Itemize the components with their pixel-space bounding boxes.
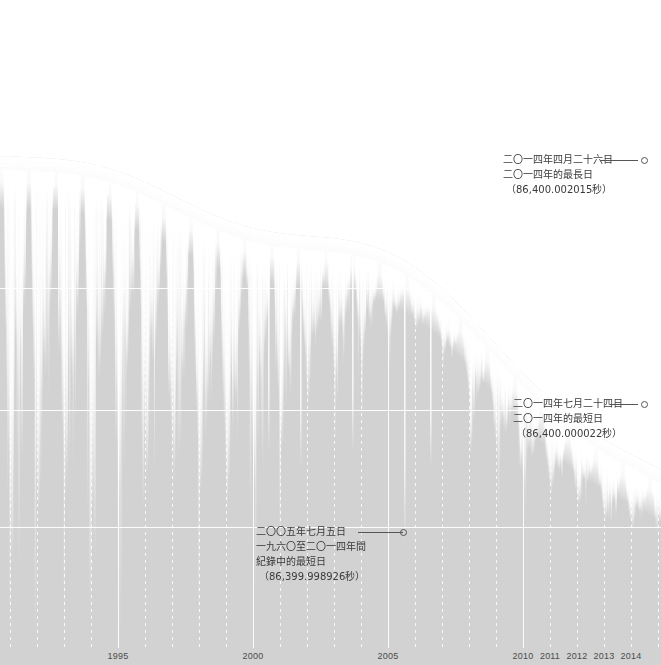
annotation-value-line: （86,399.998926秒）	[256, 569, 366, 584]
x-axis-tick-2000: 2000	[243, 651, 264, 662]
annotation-marker-circle[interactable]	[400, 529, 407, 536]
annotation-caption-line: 二〇一四年的最長日	[503, 167, 613, 182]
annotation-leader-line	[358, 532, 403, 533]
x-axis-tick-2012: 2012	[567, 651, 588, 662]
annotation-marker-circle[interactable]	[641, 401, 648, 408]
annotation-caption-line: 二〇一四年的最短日	[513, 411, 623, 426]
annotation-leader-line	[600, 160, 638, 161]
x-axis-tick-1995: 1995	[108, 651, 129, 662]
annotation-value-line: （86,400.000022秒）	[513, 426, 623, 441]
x-axis-tick-2010: 2010	[513, 651, 534, 662]
x-axis-tick-2013: 2013	[594, 651, 615, 662]
annotation-caption-line: 紀錄中的最短日	[256, 554, 366, 569]
annotation-date-line: 二〇一四年四月二十六日	[503, 152, 613, 167]
annotation-leader-line	[610, 404, 638, 405]
annotation-marker-circle[interactable]	[641, 157, 648, 164]
annotation-date-line: 二〇一四年七月二十四日	[513, 396, 623, 411]
annotation-longest-day-2014: 二〇一四年四月二十六日 二〇一四年的最長日 （86,400.002015秒）	[503, 152, 613, 197]
annotation-value-line: （86,400.002015秒）	[503, 182, 613, 197]
x-axis-tick-2014: 2014	[621, 651, 642, 662]
annotation-date-line: 二〇〇五年七月五日	[256, 524, 366, 539]
x-axis-tick-2011: 2011	[540, 651, 560, 662]
annotation-record-shortest-day: 二〇〇五年七月五日 一九六〇至二〇一四年間 紀錄中的最短日 （86,399.99…	[256, 524, 366, 584]
x-axis: 19952000200520102011201220132014	[0, 648, 661, 665]
x-axis-tick-2005: 2005	[378, 651, 399, 662]
chart-page: 19952000200520102011201220132014 二〇一四年四月…	[0, 0, 661, 665]
annotation-range-line: 一九六〇至二〇一四年間	[256, 539, 366, 554]
annotation-shortest-day-2014: 二〇一四年七月二十四日 二〇一四年的最短日 （86,400.000022秒）	[513, 396, 623, 441]
